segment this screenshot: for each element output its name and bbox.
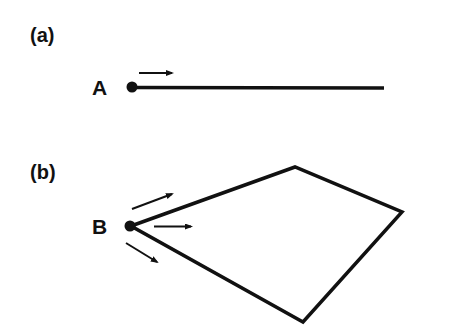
- diagram-canvas: [0, 0, 468, 332]
- quadrilateral: [131, 167, 402, 322]
- panel-a-diagram: [127, 73, 385, 93]
- point-b-dot: [125, 221, 136, 232]
- line-segment: [131, 88, 384, 89]
- arrow-upper-icon: [132, 194, 172, 209]
- panel-b-diagram: [125, 167, 403, 322]
- point-a-dot: [127, 82, 138, 93]
- arrow-lower-icon: [126, 243, 157, 262]
